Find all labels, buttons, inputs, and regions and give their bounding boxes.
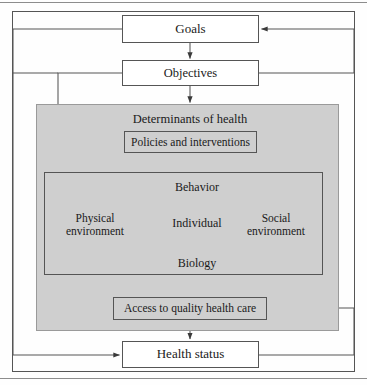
node-goals-label: Goals — [175, 22, 205, 37]
label-individual-text: Individual — [172, 217, 221, 231]
label-physical-environment: Physical environment — [52, 208, 138, 242]
label-behavior-text: Behavior — [175, 181, 219, 195]
node-objectives-label: Objectives — [164, 66, 217, 80]
label-social-environment-line2: environment — [247, 225, 305, 237]
label-biology-text: Biology — [178, 257, 217, 271]
label-social-environment-text: Social environment — [247, 212, 305, 239]
node-health-status-label: Health status — [157, 347, 225, 362]
label-physical-environment-line1: Physical — [76, 212, 115, 224]
label-behavior: Behavior — [161, 180, 233, 196]
label-physical-environment-text: Physical environment — [66, 212, 124, 239]
node-policies-and-interventions[interactable]: Policies and interventions — [124, 131, 257, 153]
label-social-environment-line1: Social — [262, 212, 291, 224]
label-determinants-of-health: Determinants of health — [100, 109, 280, 129]
node-access-to-quality-health-care[interactable]: Access to quality health care — [113, 297, 267, 320]
node-objectives[interactable]: Objectives — [122, 60, 259, 86]
node-policies-label: Policies and interventions — [131, 136, 250, 149]
label-physical-environment-line2: environment — [66, 225, 124, 237]
label-individual: Individual — [159, 215, 235, 233]
node-goals[interactable]: Goals — [122, 15, 259, 43]
node-health-status[interactable]: Health status — [122, 341, 259, 368]
label-social-environment: Social environment — [235, 208, 317, 242]
node-access-label: Access to quality health care — [124, 302, 256, 315]
label-biology: Biology — [163, 256, 231, 272]
label-determinants-of-health-text: Determinants of health — [133, 112, 248, 127]
diagram-canvas: Goals Objectives Determinants of health … — [0, 0, 367, 385]
